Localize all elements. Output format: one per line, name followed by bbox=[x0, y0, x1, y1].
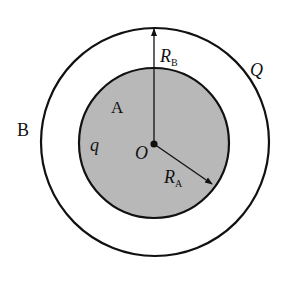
center-label: O bbox=[135, 143, 148, 163]
outer-shell-label: B bbox=[17, 120, 29, 140]
inner-sphere-label: A bbox=[111, 98, 124, 117]
outer-charge-label: Q bbox=[250, 60, 263, 80]
concentric-spheres-diagram: RB Q B A q O RA bbox=[0, 0, 295, 281]
center-point-dot bbox=[150, 140, 157, 147]
inner-charge-label: q bbox=[90, 135, 99, 155]
